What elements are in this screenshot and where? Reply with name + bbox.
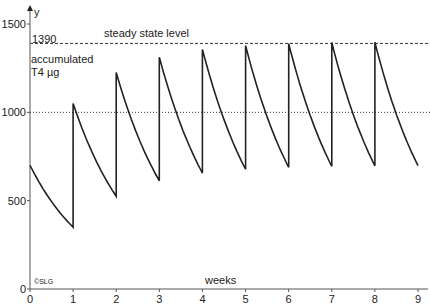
- x-tick-label: 1: [70, 293, 76, 305]
- y-tick-label: 500: [8, 195, 26, 207]
- x-tick-label: 3: [156, 293, 162, 305]
- steady-state-label: steady state level: [104, 27, 189, 39]
- ylabel-line1: accumulated: [31, 53, 93, 65]
- x-axis-label: weeks: [204, 274, 237, 286]
- x-tick-label: 6: [286, 293, 292, 305]
- y-tick-label: 1500: [2, 18, 26, 30]
- y-tick-label: 1000: [2, 106, 26, 118]
- x-tick-label: 7: [329, 293, 335, 305]
- x-tick-label: 8: [372, 293, 378, 305]
- ylabel-line2: T4 µg: [31, 66, 59, 78]
- x-tick-label: 4: [199, 293, 205, 305]
- x-tick-label: 0: [27, 293, 33, 305]
- y-axis-arrow-icon: [27, 5, 33, 11]
- x-tick-label: 2: [113, 293, 119, 305]
- t4-accumulation-chart: 0123456789050010001500 y steady state le…: [0, 0, 430, 308]
- copyright-text: ©SLG: [34, 278, 53, 285]
- steady-state-value-label: 1390: [32, 33, 56, 45]
- y-axis-label: y: [34, 6, 40, 18]
- x-tick-label: 9: [415, 293, 421, 305]
- series-line-accumulated-t4: [30, 42, 418, 227]
- x-tick-label: 5: [242, 293, 248, 305]
- y-tick-label: 0: [20, 283, 26, 295]
